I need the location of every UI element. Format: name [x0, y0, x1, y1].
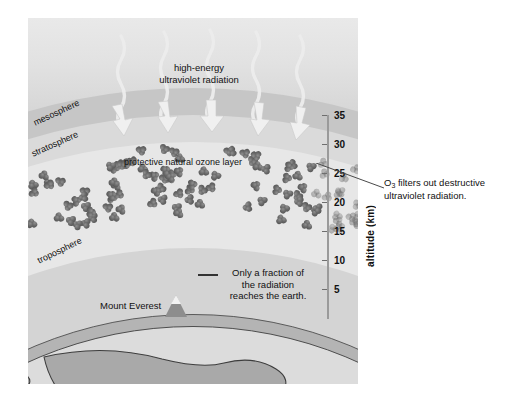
uv-radiation-label-line1: high-energy [174, 62, 224, 73]
altitude-tick-25 [322, 173, 327, 174]
uv-radiation-label-line2: ultraviolet radiation [159, 74, 239, 85]
altitude-tick-label-5: 5 [334, 284, 340, 295]
uv-radiation-label: high-energy ultraviolet radiation [124, 62, 274, 85]
o3-callout-text: O3 filters out destructive ultraviolet r… [384, 177, 510, 201]
mount-everest-snowcap [171, 295, 181, 304]
altitude-tick-10 [322, 260, 327, 261]
o3-callout-body: filters out destructive ultraviolet radi… [384, 177, 485, 201]
altitude-axis-title: altitude (km) [365, 205, 376, 267]
altitude-tick-label-30: 30 [334, 139, 345, 150]
radiation-fraction-note: Only a fraction of the radiation reaches… [213, 267, 323, 302]
o3-callout-subscript: 3 [391, 182, 395, 189]
altitude-tick-label-20: 20 [334, 197, 345, 208]
earth-surface [28, 326, 358, 384]
mount-everest-label: Mount Everest [100, 300, 161, 311]
radiation-fraction-leader-line [198, 274, 218, 276]
radiation-fraction-note-line1: Only a fraction of [232, 267, 304, 278]
altitude-tick-5 [322, 289, 327, 290]
altitude-tick-20 [322, 202, 327, 203]
altitude-tick-15 [322, 231, 327, 232]
altitude-tick-label-15: 15 [334, 226, 345, 237]
ozone-layer-label: protective natural ozone layer [124, 157, 242, 168]
altitude-tick-label-35: 35 [334, 110, 345, 121]
continent-outlines [28, 327, 358, 384]
altitude-axis [327, 115, 329, 319]
altitude-tick-label-25: 25 [334, 168, 345, 179]
altitude-tick-label-10: 10 [334, 255, 345, 266]
radiation-fraction-note-line3: reaches the earth. [230, 290, 307, 301]
altitude-tick-30 [322, 144, 327, 145]
atmosphere-diagram-panel: high-energy ultraviolet radiation protec… [28, 18, 358, 384]
altitude-tick-35 [322, 115, 327, 116]
radiation-fraction-note-line2: the radiation [242, 279, 294, 290]
